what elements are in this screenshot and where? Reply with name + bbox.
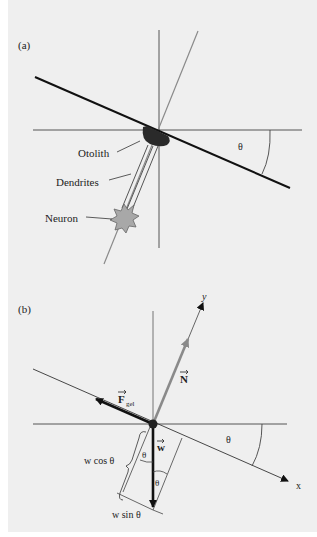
dendrite-line — [132, 146, 158, 210]
x-axis-label: x — [296, 480, 301, 491]
dendrites-label: Dendrites — [56, 176, 99, 188]
otolith-leader-line — [117, 141, 140, 152]
component-line — [117, 493, 153, 510]
angle-theta-label: θ — [238, 141, 243, 152]
x-axis — [33, 369, 288, 481]
otolith-label: Otolith — [78, 147, 110, 159]
center-point — [149, 420, 158, 429]
angle-theta-w2-label: θ — [155, 478, 159, 488]
angle-arc-w2 — [153, 471, 167, 474]
w-sin-theta-label: w sin θ — [112, 509, 141, 520]
normal-force-label: N — [180, 373, 188, 385]
component-line — [153, 510, 163, 514]
panel-b-label: (b) — [18, 303, 31, 316]
angle-arc-incline — [252, 424, 262, 466]
panel-a-label: (a) — [18, 39, 31, 52]
angle-theta-w1-label: θ — [142, 450, 146, 460]
w-cos-theta-label: w cos θ — [84, 455, 115, 466]
weight-label: w — [157, 441, 165, 453]
dendrites-leader-line — [109, 174, 131, 180]
incline-line — [35, 77, 290, 188]
angle-theta-incline-label: θ — [226, 434, 231, 445]
neuron-leader-line — [86, 217, 112, 219]
neuron-shape — [110, 204, 139, 233]
dendrite-line — [122, 145, 148, 208]
gel-force-label: F — [118, 393, 125, 405]
diagram-canvas: (a) θ Otolith Dendrites Neuron (b) — [0, 0, 317, 537]
neuron-label: Neuron — [45, 212, 78, 224]
gel-force-subscript: gel — [126, 400, 135, 408]
angle-arc-w1 — [140, 460, 153, 462]
y-axis-label: y — [201, 291, 207, 302]
dendrite-line — [127, 146, 153, 209]
angle-arc — [262, 130, 270, 174]
wcos-brace — [119, 432, 146, 500]
